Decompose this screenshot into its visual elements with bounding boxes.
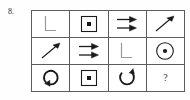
matrix-cell-r3c4[interactable]: ? [147,65,185,92]
matrix-grid: ? [31,10,185,92]
matrix-cell-r2c2[interactable] [70,38,108,65]
circular-arrow-top-gap-icon [117,68,137,88]
corner-l-icon [119,42,135,60]
matrix-cell-r2c3[interactable] [109,38,147,65]
question-number-label: 8. [8,7,14,16]
matrix-cell-r1c4[interactable] [147,11,185,38]
diagonal-up-right-arrow-icon [40,42,62,60]
double-right-arrow-icon [116,15,138,33]
matrix-cell-r3c3[interactable] [109,65,147,92]
puzzle-container: 8. [0,0,190,100]
answer-question-mark: ? [163,73,167,83]
matrix-cell-r3c2[interactable] [70,65,108,92]
matrix-cell-r1c1[interactable] [32,11,70,38]
diagonal-up-right-arrow-icon [154,15,176,33]
matrix-cell-r2c1[interactable] [32,38,70,65]
matrix-cell-r2c4[interactable] [147,38,185,65]
circle-with-dot-icon [155,41,175,61]
circular-arrow-left-gap-icon [41,68,61,88]
matrix-cell-r1c3[interactable] [109,11,147,38]
corner-l-icon [43,15,59,33]
square-with-dot-icon [80,15,98,33]
double-right-arrow-icon [78,42,100,60]
square-with-dot-icon [80,69,98,87]
matrix-cell-r3c1[interactable] [32,65,70,92]
matrix-cell-r1c2[interactable] [70,11,108,38]
